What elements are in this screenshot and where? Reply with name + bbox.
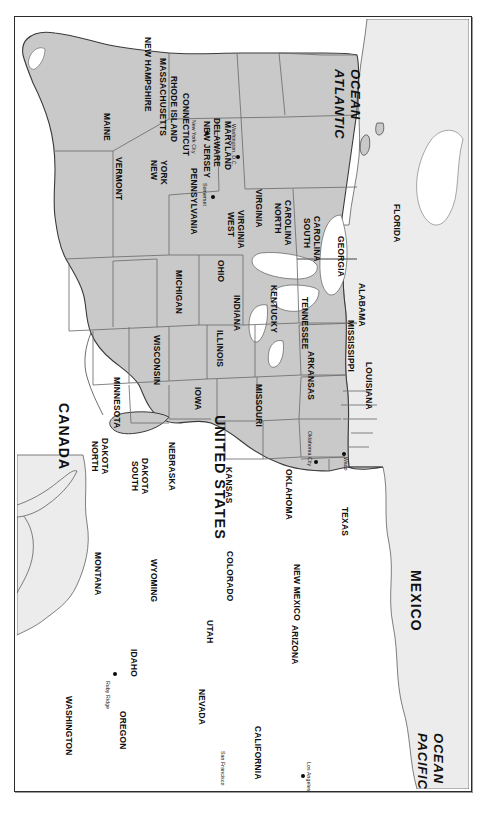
state-label-tennessee: TENNESSEE (300, 297, 309, 350)
state-label-kentucky: KENTUCKY (269, 285, 278, 333)
city-dot-washington-d-c- (236, 155, 240, 159)
state-label-wisconsin: WISCONSIN (152, 335, 161, 385)
city-label-los-angeles: Los Angeles (306, 762, 311, 791)
state-label-wyoming: WYOMING (149, 559, 158, 602)
state-label-new-mexico: NEW MEXICO (292, 564, 301, 621)
state-label-dakota: DAKOTA (140, 458, 149, 494)
state-label-montana: MONTANA (93, 552, 102, 596)
state-label-idaho: IDAHO (129, 649, 138, 677)
state-label-dakota: DAKOTA (100, 438, 109, 474)
city-dot-los-angeles (301, 774, 305, 778)
state-label-pennsylvania: PENNSYLVANIA (189, 168, 198, 235)
state-label-arizona: ARIZONA (290, 625, 299, 665)
state-label-maine: MAINE (102, 113, 111, 141)
state-label-york: YORK (159, 160, 168, 185)
state-label-kansas: KANSAS (224, 467, 233, 504)
state-label-south: SOUTH (302, 218, 311, 248)
state-label-arkansas: ARKANSAS (306, 351, 315, 400)
ocean-label-pacific-line2: OCEAN (431, 733, 445, 784)
state-label-north: NORTH (90, 441, 99, 472)
city-label-waco: Waco (343, 457, 348, 470)
state-label-louisiana: LOUISIANA (364, 362, 373, 410)
state-label-north: NORTH (273, 203, 282, 234)
state-label-florida: FLORIDA (392, 204, 401, 243)
label-layer: MAINENEW HAMPSHIREMASSACHUSETTSRHODE ISL… (15, 17, 471, 791)
state-label-west: WEST (226, 212, 235, 237)
city-dot-somerset (211, 195, 215, 199)
state-label-ohio: OHIO (216, 260, 225, 282)
city-label-san-francisco: San Francisco (220, 751, 225, 785)
state-label-maryland: MARYLAND (223, 121, 232, 170)
state-label-new-hampshire: NEW HAMPSHIRE (143, 37, 152, 112)
state-label-minnesota: MINNESOTA (112, 377, 121, 428)
state-label-mississippi: MISSISSIPPI (346, 320, 355, 372)
city-label-washington-d-c-: Washington, D.C. (231, 124, 236, 166)
state-label-utah: UTAH (205, 620, 214, 643)
state-label-washington: WASHINGTON (64, 696, 73, 756)
country-label-mexico: MEXICO (408, 570, 423, 632)
city-dot-new-york-city (205, 131, 209, 135)
city-label-somerset: Somerset (202, 183, 207, 206)
city-dot-san-francisco (230, 791, 234, 792)
state-label-missouri: MISSOURI (254, 384, 263, 427)
state-label-california: CALIFORNIA (253, 726, 262, 780)
state-label-carolina: CAROLINA (283, 200, 292, 246)
state-label-carolina: CAROLINA (312, 216, 321, 262)
city-label-oklahoma-city: Oklahoma City (307, 431, 312, 466)
city-dot-oklahoma-city (314, 460, 318, 464)
map-figure: MAINENEW HAMPSHIREMASSACHUSETTSRHODE ISL… (0, 0, 490, 822)
state-label-south: SOUTH (130, 461, 139, 491)
ocean-label-atlantic-line2: OCEAN (348, 69, 362, 120)
state-label-rhode-island: RHODE ISLAND (169, 76, 178, 142)
map-frame-border: MAINENEW HAMPSHIREMASSACHUSETTSRHODE ISL… (14, 16, 472, 792)
state-label-delaware: DELAWARE (212, 118, 221, 167)
ocean-label-pacific: PACIFIC (415, 733, 429, 790)
city-label-ruby-ridge: Ruby Ridge (105, 681, 110, 709)
state-label-oklahoma: OKLAHOMA (284, 469, 293, 520)
state-label-texas: TEXAS (340, 507, 349, 536)
state-label-iowa: IOWA (193, 387, 202, 410)
state-label-vermont: VERMONT (114, 157, 123, 200)
city-label-new-york-city: New York City (191, 120, 196, 154)
state-label-nevada: NEVADA (197, 689, 206, 725)
state-label-colorado: COLORADO (225, 551, 234, 601)
state-label-connecticut: CONNECTICUT (181, 93, 190, 156)
state-label-illinois: ILLINOIS (215, 330, 224, 367)
state-label-virginia: VIRGINIA (236, 210, 245, 249)
state-label-new-jersey: NEW JERSEY (202, 121, 211, 178)
state-label-oregon: OREGON (118, 711, 127, 749)
state-label-massachusetts: MASSACHUSETTS (158, 58, 167, 136)
state-label-alabama: ALABAMA (357, 283, 366, 327)
country-label-united-states: UNITED STATES (212, 415, 227, 540)
state-label-nebraska: NEBRASKA (167, 442, 176, 491)
state-label-georgia: GEORGIA (336, 236, 345, 277)
city-dot-ruby-ridge (113, 672, 117, 676)
state-label-indiana: INDIANA (232, 295, 241, 331)
state-label-virginia: VIRGINIA (254, 189, 263, 228)
state-label-new: NEW (149, 160, 158, 180)
city-dot-waco (342, 452, 346, 456)
state-label-michigan: MICHIGAN (174, 270, 183, 314)
ocean-label-atlantic: ATLANTIC (332, 69, 346, 139)
country-label-canada: CANADA (56, 403, 71, 470)
